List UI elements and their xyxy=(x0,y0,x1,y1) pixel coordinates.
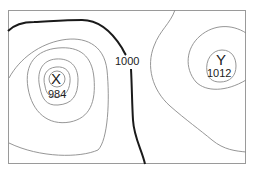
isobar-1000-lower xyxy=(131,69,145,164)
isobar-1000 xyxy=(8,20,126,55)
low-center-value: 984 xyxy=(48,89,66,100)
isobar-1000-label: 1000 xyxy=(115,56,139,67)
high-contours xyxy=(151,10,246,152)
map-frame xyxy=(9,11,246,164)
low-center-label: X xyxy=(51,71,61,86)
high-center-label: Y xyxy=(216,52,226,67)
high-center-value: 1012 xyxy=(207,68,231,79)
isobar-map xyxy=(0,0,254,170)
